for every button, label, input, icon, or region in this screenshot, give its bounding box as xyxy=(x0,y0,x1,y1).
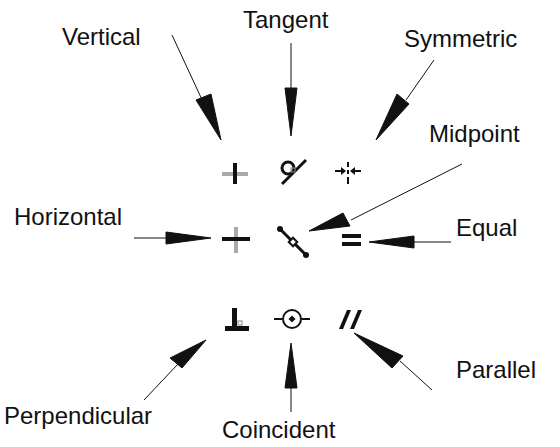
symmetric-icon xyxy=(333,160,363,190)
arrow-symmetric xyxy=(376,60,434,140)
perpendicular-icon xyxy=(222,305,252,335)
arrow-equal xyxy=(369,236,451,248)
tangent-icon xyxy=(278,158,310,188)
arrow-horizontal xyxy=(134,232,211,244)
arrow-midpoint xyxy=(309,164,462,231)
arrow-coincident xyxy=(285,343,297,412)
parallel-icon xyxy=(337,307,367,333)
arrow-perpendicular xyxy=(144,340,206,400)
midpoint-icon xyxy=(276,225,310,259)
relations-diagram: Vertical Tangent Symmetric Midpoint Hori… xyxy=(0,0,560,447)
arrow-tangent xyxy=(285,43,297,136)
coincident-icon xyxy=(273,306,311,332)
arrow-parallel xyxy=(354,333,432,390)
equal-icon xyxy=(340,230,364,252)
vertical-icon xyxy=(220,160,250,190)
horizontal-icon xyxy=(220,225,252,255)
arrows-layer xyxy=(0,0,560,447)
arrow-vertical xyxy=(172,35,221,140)
